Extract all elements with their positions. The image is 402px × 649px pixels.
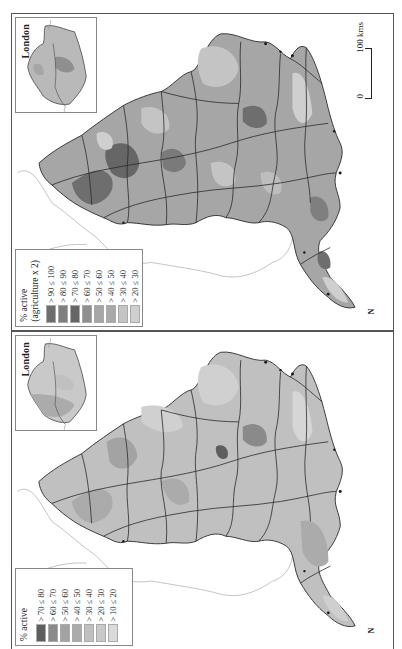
scale-bar-line [371, 48, 372, 98]
legend-label: > 70 ≤ 80 [70, 270, 80, 303]
legend-swatch [48, 624, 58, 642]
london-inset: London [15, 17, 97, 113]
legend-item: > 90 ≤ 100 [46, 255, 56, 323]
legend-swatch [84, 624, 94, 642]
legend-item: > 60 ≤ 70 [48, 574, 58, 642]
legend-item: > 20 ≤ 30 [130, 255, 140, 323]
legend-swatch [46, 305, 56, 323]
legend: % active (agriculture x 2) > 90 ≤ 100> 8… [15, 249, 143, 327]
legend-item: > 40 ≤ 50 [106, 255, 116, 323]
scale-bar-tick [365, 48, 372, 49]
legend-swatch [96, 624, 106, 642]
legend-swatch [82, 305, 92, 323]
legend-label: > 20 ≤ 30 [130, 270, 140, 303]
legend-item: > 40 ≤ 50 [72, 574, 82, 642]
legend-swatch [72, 624, 82, 642]
legend-item: > 30 ≤ 40 [84, 574, 94, 642]
legend-items: > 70 ≤ 80> 60 ≤ 70> 50 ≤ 60> 40 ≤ 50> 30… [36, 574, 118, 642]
legend-swatch [58, 305, 68, 323]
legend-label: > 10 ≤ 20 [108, 589, 118, 622]
legend-items: > 90 ≤ 100> 80 ≤ 90> 70 ≤ 80> 60 ≤ 70> 5… [46, 255, 140, 323]
legend-item: > 70 ≤ 80 [36, 574, 46, 642]
scale-bar-tick [365, 98, 372, 99]
legend-item: > 10 ≤ 20 [108, 574, 118, 642]
legend-swatch [36, 624, 46, 642]
map-panel-agriculture: London 0 100 kms % active (agriculture x… [11, 13, 394, 331]
legend-label: > 50 ≤ 60 [94, 270, 104, 303]
legend-label: > 40 ≤ 50 [106, 270, 116, 303]
legend-item: > 50 ≤ 60 [60, 574, 70, 642]
legend-title-line: % active [19, 289, 29, 322]
legend-swatch [108, 624, 118, 642]
legend-label: > 80 ≤ 90 [58, 270, 68, 303]
map-panel-active: London % active > 70 ≤ 80> 60 ≤ 70> 50 ≤… [11, 331, 394, 649]
legend-swatch [94, 305, 104, 323]
legend-item: > 50 ≤ 60 [94, 255, 104, 323]
legend-label: > 20 ≤ 30 [96, 589, 106, 622]
legend-label: > 50 ≤ 60 [60, 589, 70, 622]
north-arrow-icon: N [368, 309, 377, 315]
legend-title-line: % active [19, 608, 29, 641]
legend-label: > 30 ≤ 40 [84, 589, 94, 622]
legend-label: > 40 ≤ 50 [72, 589, 82, 622]
legend-label: > 60 ≤ 70 [82, 270, 92, 303]
north-arrow-icon: N [368, 628, 377, 634]
legend-label: > 70 ≤ 80 [36, 589, 46, 622]
legend-title-line: (agriculture x 2) [30, 260, 40, 322]
legend-title: % active [19, 608, 30, 641]
legend-item: > 30 ≤ 40 [118, 255, 128, 323]
legend-label: > 90 ≤ 100 [46, 266, 56, 303]
scale-start-label: 0 [355, 94, 365, 99]
legend-item: > 70 ≤ 80 [70, 255, 80, 323]
inset-title: London [20, 24, 31, 59]
legend: % active > 70 ≤ 80> 60 ≤ 70> 50 ≤ 60> 40… [15, 568, 133, 646]
legend-swatch [70, 305, 80, 323]
legend-swatch [106, 305, 116, 323]
scale-end-label: 100 kms [355, 22, 365, 53]
legend-title: % active (agriculture x 2) [19, 260, 41, 322]
legend-item: > 20 ≤ 30 [96, 574, 106, 642]
legend-swatch [60, 624, 70, 642]
legend-swatch [118, 305, 128, 323]
legend-item: > 60 ≤ 70 [82, 255, 92, 323]
london-inset: London [15, 335, 97, 431]
legend-swatch [130, 305, 140, 323]
legend-label: > 30 ≤ 40 [118, 270, 128, 303]
legend-label: > 60 ≤ 70 [48, 589, 58, 622]
scale-bar: 0 100 kms [361, 44, 381, 104]
legend-item: > 80 ≤ 90 [58, 255, 68, 323]
inset-title: London [20, 342, 31, 377]
